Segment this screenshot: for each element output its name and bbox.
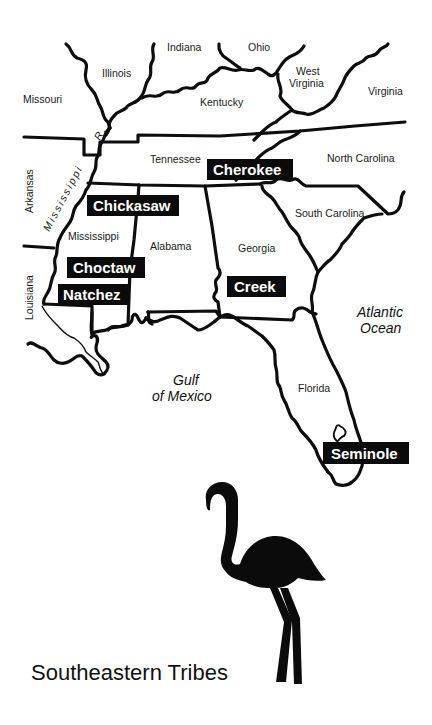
label-mississippi-river: Mississippi [40,163,85,233]
label-missouri: Missouri [23,93,62,105]
label-arkansas: Arkansas [23,169,35,213]
tribe-seminole: Seminole [323,442,409,464]
tribe-creek: Creek [227,276,286,297]
label-river-abbrev: R. [91,124,108,142]
svg-text:Natchez: Natchez [63,286,121,303]
label-west-virginia-1: West [296,65,320,77]
map-title: Southeastern Tribes [31,660,228,686]
border-alabama-florida [148,311,220,317]
southeastern-tribes-map: Indiana Ohio Illinois West Virginia Miss… [0,0,432,725]
label-atlantic-1: Atlantic [356,304,403,320]
border-illinois-indiana [109,44,154,128]
label-louisiana: Louisiana [23,275,35,320]
label-indiana: Indiana [167,41,202,53]
label-west-virginia-2: Virginia [289,77,324,89]
tribe-chickasaw: Chickasaw [87,195,179,216]
border-kentucky-virginia [254,110,292,140]
label-virginia: Virginia [368,85,403,97]
lake-okeechobee [334,425,346,441]
label-kentucky: Kentucky [200,96,244,108]
label-tennessee: Tennessee [150,153,201,165]
border-missouri-illinois [66,44,109,135]
svg-text:Choctaw: Choctaw [73,259,136,276]
label-alabama: Alabama [150,240,192,252]
label-gulf-2: of Mexico [152,388,212,404]
border-alabama-georgia [205,186,220,317]
label-florida: Florida [298,382,330,394]
state-labels: Indiana Ohio Illinois West Virginia Miss… [23,41,403,394]
label-georgia: Georgia [238,242,276,254]
svg-text:Creek: Creek [234,278,276,295]
border-indiana-ohio [219,44,240,68]
tribe-natchez: Natchez [58,284,130,305]
svg-text:Cherokee: Cherokee [213,161,281,178]
tribe-choctaw: Choctaw [67,257,145,278]
louisiana-coast [28,336,108,375]
border-arkansas-louisiana [24,246,54,248]
border-tennessee-north [24,122,405,155]
louisiana-delta-inner [42,306,104,374]
label-south-carolina: South Carolina [295,207,365,219]
flamingo-icon [206,482,326,684]
border-tennessee-south [88,183,260,186]
label-ohio: Ohio [248,41,270,53]
label-illinois: Illinois [102,67,131,79]
label-gulf-1: Gulf [173,372,201,388]
gulf-coast-mississippi [91,312,128,334]
tribe-cherokee: Cherokee [207,159,293,180]
svg-text:Seminole: Seminole [331,445,398,462]
border-georgia-south-carolina [262,186,382,272]
svg-text:Chickasaw: Chickasaw [93,197,171,214]
label-mississippi: Mississippi [68,230,119,242]
label-atlantic-2: Ocean [360,320,401,336]
label-north-carolina: North Carolina [327,152,395,164]
